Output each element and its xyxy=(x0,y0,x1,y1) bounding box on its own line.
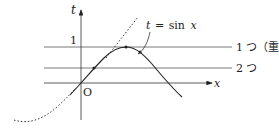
intersection-point xyxy=(93,67,96,70)
curve-label: t = sin x xyxy=(146,19,197,32)
tick-one-label: 1 xyxy=(70,34,77,47)
label-one-double-root: 1 つ（重解） xyxy=(236,40,279,54)
origin-label: O xyxy=(83,86,92,99)
sine-curve-dotted xyxy=(14,88,76,122)
diagram-canvas: t x O 1 t = sin x 1 つ（重解） 2 つ xyxy=(0,0,279,129)
y-axis-label: t xyxy=(71,3,76,17)
max-point xyxy=(125,46,128,49)
label-two: 2 つ xyxy=(236,62,258,75)
sine-diagram: t x O 1 t = sin x 1 つ（重解） 2 つ xyxy=(0,0,279,129)
x-axis-label: x xyxy=(214,77,221,90)
